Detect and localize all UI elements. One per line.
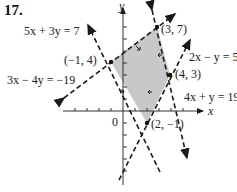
equation-label: 2x − y = 5	[189, 51, 237, 63]
x-axis-label: x	[208, 105, 213, 117]
y-axis-label: y	[119, 0, 124, 12]
vertex-label: (3, 7)	[161, 23, 187, 35]
vertex-label: (2, −1)	[151, 118, 184, 130]
equation-label: 4x + y = 19	[184, 91, 237, 103]
vertex-label: (4, 3)	[175, 68, 201, 80]
feasible-region	[111, 27, 170, 123]
equation-label: 3x − 4y = −19	[7, 74, 75, 86]
equation-label: 5x + 3y = 7	[24, 25, 80, 37]
origin-label: 0	[112, 116, 118, 128]
vertex-label: (−1, 4)	[64, 54, 97, 66]
